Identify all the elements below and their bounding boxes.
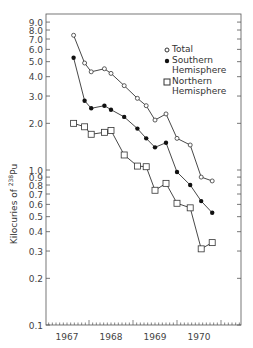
- y-tick-label: 0.5: [29, 212, 43, 222]
- data-point: [122, 84, 126, 88]
- y-tick-label: 3.0: [29, 92, 44, 102]
- data-point: [121, 152, 127, 158]
- legend-label-southern: SouthernHemisphere: [172, 55, 226, 75]
- series-northern-hemisphere: [71, 120, 216, 251]
- data-point: [153, 118, 157, 122]
- y-tick-label: 9.0: [29, 18, 44, 28]
- isotope-superscript: 238: [7, 175, 14, 186]
- y-tick-label: 1.0: [29, 166, 44, 176]
- open-square-icon: [163, 78, 172, 86]
- data-point: [188, 143, 192, 147]
- y-tick-label: 0.3: [29, 247, 43, 257]
- data-point: [109, 107, 113, 111]
- x-tick-label: 1969: [144, 332, 167, 342]
- y-tick-label: 0.6: [29, 200, 44, 210]
- data-point: [188, 183, 192, 187]
- y-tick-label: 0.2: [29, 274, 43, 284]
- y-axis-label-element: Pu: [9, 164, 19, 175]
- y-axis-label: Kilocuries of 238Pu: [7, 149, 19, 259]
- data-point: [71, 56, 75, 60]
- y-tick-label: 0.1: [29, 321, 43, 331]
- data-point: [82, 98, 86, 102]
- data-point: [89, 70, 93, 74]
- legend: Total SouthernHemisphere NorthernHemisph…: [163, 44, 226, 97]
- y-tick-label: 6.0: [29, 45, 44, 55]
- data-point: [209, 240, 215, 246]
- data-point: [102, 67, 106, 71]
- data-point: [135, 126, 139, 130]
- x-tick-label: 1970: [188, 332, 211, 342]
- data-point: [71, 120, 77, 126]
- legend-label-total: Total: [172, 44, 193, 54]
- data-point: [187, 205, 193, 211]
- data-point: [164, 141, 168, 145]
- x-tick-label: 1967: [56, 332, 79, 342]
- data-point: [109, 71, 113, 75]
- y-tick-label: 0.4: [29, 227, 44, 237]
- data-point: [153, 145, 157, 149]
- filled-circle-icon: [163, 57, 172, 65]
- data-point: [83, 61, 87, 65]
- x-axis-ticks: 1967196819691970: [49, 320, 240, 342]
- legend-item-southern: SouthernHemisphere: [163, 55, 226, 75]
- y-tick-label: 2.0: [29, 119, 44, 129]
- y-tick-label: 4.0: [29, 72, 44, 82]
- legend-item-northern: NorthernHemisphere: [163, 76, 226, 96]
- x-tick-label: 1968: [100, 332, 123, 342]
- legend-label-northern: NorthernHemisphere: [172, 76, 226, 96]
- y-tick-label: 5.0: [29, 57, 44, 67]
- data-point: [199, 199, 203, 203]
- data-point: [175, 136, 179, 140]
- data-point: [199, 175, 203, 179]
- data-point: [144, 104, 148, 108]
- data-point: [175, 170, 179, 174]
- data-point: [89, 106, 93, 110]
- data-point: [122, 115, 126, 119]
- data-point: [101, 129, 107, 135]
- data-point: [198, 246, 204, 252]
- open-circle-icon: [163, 46, 172, 54]
- y-tick-label: 0.7: [29, 190, 43, 200]
- data-point: [143, 164, 149, 170]
- data-point: [163, 180, 169, 186]
- data-point: [144, 136, 148, 140]
- data-point: [164, 112, 168, 116]
- y-axis-label-text: Kilocuries of: [9, 186, 19, 244]
- data-point: [152, 187, 158, 193]
- data-point: [210, 179, 214, 183]
- data-point: [82, 124, 88, 130]
- data-point: [72, 33, 76, 37]
- data-point: [174, 200, 180, 206]
- legend-item-total: Total: [163, 44, 226, 54]
- data-point: [134, 163, 140, 169]
- data-point: [210, 211, 214, 215]
- data-point: [102, 103, 106, 107]
- data-point: [108, 127, 114, 133]
- y-tick-label: 7.0: [29, 35, 44, 45]
- data-point: [88, 131, 94, 137]
- data-point: [135, 96, 139, 100]
